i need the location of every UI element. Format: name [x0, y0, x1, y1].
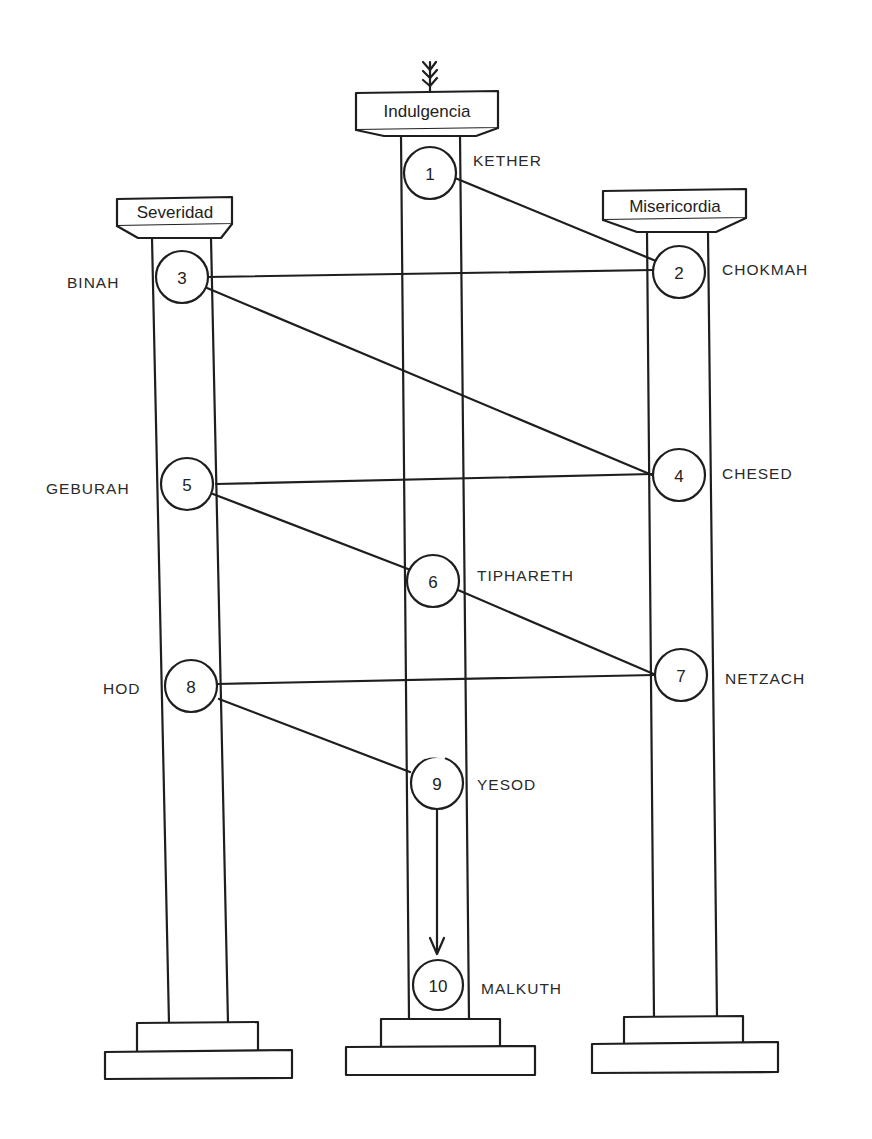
- sephira-8[interactable]: 8: [165, 660, 217, 712]
- capital-left-label: Severidad: [137, 203, 214, 222]
- base-right-upper: [624, 1016, 743, 1044]
- sephira-number: 7: [676, 667, 685, 686]
- lightning-flash-icon: [423, 62, 437, 92]
- capital-right-neck: [603, 218, 746, 232]
- sephira-number: 2: [674, 264, 683, 283]
- sephira-4[interactable]: 4: [653, 449, 705, 501]
- sephira-label-malkuth: MALKUTH: [481, 980, 562, 997]
- sephira-number: 5: [182, 476, 191, 495]
- base-middle-lower: [346, 1046, 535, 1075]
- base-left-lower: [105, 1050, 292, 1079]
- sephira-7[interactable]: 7: [655, 649, 707, 701]
- pillar-right-edge: [708, 232, 717, 1017]
- pillar-middle-edge: [460, 135, 469, 1019]
- base-right-lower: [592, 1042, 778, 1073]
- sephira-number: 4: [674, 467, 683, 486]
- sephira-9[interactable]: 9: [411, 755, 463, 809]
- pillar-left: Severidad: [105, 197, 292, 1079]
- capital-right-label: Misericordia: [629, 197, 721, 216]
- sephira-number: 6: [428, 573, 437, 592]
- sephira-label-geburah: GEBURAH: [46, 480, 130, 497]
- sephira-number: 1: [425, 165, 434, 184]
- sephira-5[interactable]: 5: [161, 458, 213, 510]
- sephira-2[interactable]: 2: [653, 246, 705, 298]
- sephira-number: 9: [432, 775, 441, 794]
- path-6-7: [458, 590, 656, 675]
- pillar-left-edge: [152, 238, 169, 1023]
- path-5-6: [213, 494, 408, 569]
- capital-middle-label: Indulgencia: [384, 102, 472, 121]
- sephira-6[interactable]: 6: [407, 555, 459, 607]
- sephira-label-netzach: NETZACH: [725, 670, 805, 687]
- sephira-10[interactable]: 10: [413, 960, 463, 1010]
- sephira-label-kether: KETHER: [473, 152, 542, 169]
- path-7-8: [217, 675, 654, 684]
- sephira-number: 3: [177, 269, 186, 288]
- sephira-3[interactable]: 3: [156, 251, 208, 303]
- sephira-number: 10: [429, 977, 448, 996]
- path-3-4: [207, 288, 652, 475]
- sephira-label-binah: BINAH: [67, 274, 119, 291]
- capital-left-neck: [117, 224, 232, 238]
- sephira-label-hod: HOD: [103, 680, 140, 697]
- tree-of-life-diagram: Severidad Indulgencia Misericordia: [0, 0, 872, 1139]
- base-middle-upper: [381, 1019, 500, 1047]
- sephira-label-yesod: YESOD: [477, 776, 536, 793]
- pillar-right: Misericordia: [592, 189, 778, 1073]
- path-2-3: [207, 270, 653, 277]
- pillar-left-edge: [211, 238, 228, 1023]
- sephira-1[interactable]: 1: [404, 147, 456, 199]
- base-left-upper: [137, 1022, 258, 1052]
- path-4-5: [216, 474, 652, 484]
- sephira-label-tiphareth: TIPHARETH: [477, 567, 574, 584]
- pillar-right-edge: [647, 232, 654, 1017]
- sephira-label-chokmah: CHOKMAH: [722, 261, 808, 278]
- path-8-9: [219, 699, 410, 772]
- sephira-label-chesed: CHESED: [722, 465, 793, 482]
- sephira-number: 8: [186, 678, 195, 697]
